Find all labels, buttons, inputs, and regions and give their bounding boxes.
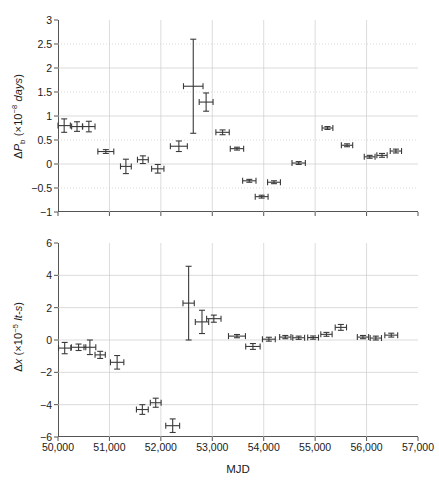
data-point xyxy=(59,342,71,353)
y-tick-label: 6 xyxy=(20,238,52,248)
data-point xyxy=(195,310,208,333)
data-point xyxy=(268,179,281,185)
data-point xyxy=(58,119,70,132)
x-tick-label: 56,000 xyxy=(339,442,395,453)
data-point xyxy=(364,154,375,160)
data-point xyxy=(385,332,398,338)
data-point xyxy=(230,146,243,152)
x-tick-label: 54,000 xyxy=(236,442,292,453)
x-tick-label: 50,000 xyxy=(30,442,86,453)
y-tick-label: −1 xyxy=(20,207,52,217)
y-tick-label: 0 xyxy=(20,335,52,345)
panel-delta-x: Δx (×10−5 lt-s) −6−4−20246 50,00051,0005… xyxy=(0,232,439,483)
y-tick-label: 1 xyxy=(20,111,52,121)
data-point xyxy=(183,266,194,340)
data-point xyxy=(84,340,96,355)
y-tick-label: 2.5 xyxy=(20,39,52,49)
data-point xyxy=(150,398,161,407)
panel-delta-pb: ΔPb (×10−8 days) −1−0.500.511.522.53 xyxy=(0,0,439,232)
data-point xyxy=(166,419,180,433)
x-tick-label: 51,000 xyxy=(81,442,137,453)
data-point xyxy=(72,122,83,132)
data-point xyxy=(152,164,164,173)
data-point xyxy=(183,39,203,133)
data-point xyxy=(136,405,148,415)
data-point xyxy=(255,194,268,200)
x-tick-label: 53,000 xyxy=(184,442,240,453)
y-tick-label: 0.5 xyxy=(20,135,52,145)
x-tick-label: 57,000 xyxy=(390,442,439,453)
x-tick-label: 52,000 xyxy=(133,442,189,453)
data-point xyxy=(262,336,275,342)
y-tick-label: −4 xyxy=(20,400,52,410)
data-point xyxy=(335,324,346,330)
pulsar-timing-figure: ΔPb (×10−8 days) −1−0.500.511.522.53 Δx … xyxy=(0,0,439,483)
data-point xyxy=(120,159,131,173)
y-tick-label: 2 xyxy=(20,303,52,313)
data-point xyxy=(243,178,256,184)
data-point xyxy=(321,331,332,337)
y-tick-label: 0 xyxy=(20,159,52,169)
data-point xyxy=(390,148,401,154)
data-point xyxy=(137,156,148,164)
data-point xyxy=(98,149,114,155)
data-point xyxy=(246,343,260,349)
data-point xyxy=(199,93,213,111)
plot-canvas-top xyxy=(0,0,439,232)
data-point xyxy=(322,125,333,131)
data-point xyxy=(341,142,352,148)
data-point xyxy=(110,356,123,370)
x-tick-label: 55,000 xyxy=(287,442,343,453)
y-tick-label: −2 xyxy=(20,367,52,377)
data-point xyxy=(95,351,105,358)
data-point xyxy=(377,152,387,158)
data-point xyxy=(216,129,229,135)
y-tick-label: 2 xyxy=(20,63,52,73)
data-point xyxy=(292,160,305,166)
y-tick-label: 1.5 xyxy=(20,87,52,97)
data-point xyxy=(83,121,95,132)
data-point xyxy=(357,334,368,340)
data-point xyxy=(170,141,187,152)
y-tick-label: −0.5 xyxy=(20,183,52,193)
x-axis-label: MJD xyxy=(58,463,418,475)
data-point xyxy=(280,334,291,340)
data-point xyxy=(228,333,245,339)
y-tick-label: 3 xyxy=(20,15,52,25)
y-tick-label: 4 xyxy=(20,270,52,280)
